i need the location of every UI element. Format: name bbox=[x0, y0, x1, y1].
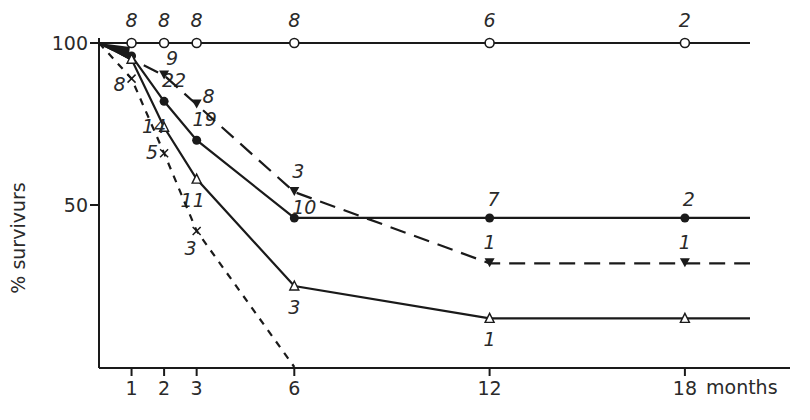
open-circles-marker bbox=[680, 39, 689, 48]
series-group: 8888622219107298311141131853 bbox=[99, 9, 750, 367]
open-triangles-point-label: 14 bbox=[142, 115, 166, 137]
open-circles-marker bbox=[290, 39, 299, 48]
origin-cluster bbox=[99, 43, 130, 59]
open-triangles-point-label: 3 bbox=[288, 296, 300, 318]
open-circles-marker bbox=[192, 39, 201, 48]
open-circles-marker bbox=[485, 39, 494, 48]
filled-circles-marker bbox=[485, 213, 494, 222]
x-tick-label-1: 1 bbox=[126, 377, 138, 399]
filled-triangles-point-label: 8 bbox=[203, 85, 215, 107]
open-circles-point-label: 6 bbox=[484, 9, 496, 31]
x-tick-label-6: 6 bbox=[288, 377, 300, 399]
crosses-point-label: 5 bbox=[146, 141, 158, 163]
open-circles-point-label: 8 bbox=[158, 9, 170, 31]
filled-triangles-point-label: 1 bbox=[484, 231, 496, 253]
open-circles-marker bbox=[127, 39, 136, 48]
filled-triangles-point-label: 3 bbox=[292, 160, 304, 182]
series-open-circles: 888862 bbox=[99, 9, 750, 48]
crosses-point-label: 3 bbox=[185, 237, 197, 259]
open-circles-marker bbox=[160, 39, 169, 48]
x-axis-title: months bbox=[706, 376, 778, 398]
filled-circles-point-label: 10 bbox=[292, 196, 316, 218]
open-circles-point-label: 8 bbox=[288, 9, 300, 31]
open-triangles-point-label: 11 bbox=[181, 189, 205, 211]
filled-circles-point-label: 2 bbox=[683, 188, 695, 210]
survival-chart: 100 50 % survivurs 12361218 months 88886… bbox=[0, 0, 810, 420]
y-tick-label-100: 100 bbox=[52, 32, 88, 54]
filled-circles-marker bbox=[192, 136, 201, 145]
open-circles-point-label: 2 bbox=[679, 9, 691, 31]
filled-circles-marker bbox=[680, 213, 689, 222]
crosses-marker bbox=[128, 75, 136, 83]
open-circles-point-label: 8 bbox=[191, 9, 203, 31]
filled-circles-point-label: 7 bbox=[488, 188, 500, 210]
filled-triangles-marker bbox=[289, 187, 299, 196]
series-open-triangles: 141131 bbox=[99, 43, 750, 350]
crosses-point-label: 8 bbox=[114, 73, 126, 95]
open-circles-point-label: 8 bbox=[126, 9, 138, 31]
x-ticks: 12361218 bbox=[126, 368, 697, 399]
filled-circles-marker bbox=[160, 97, 169, 106]
y-tick-label-50: 50 bbox=[64, 194, 88, 216]
x-tick-label-18: 18 bbox=[673, 377, 697, 399]
x-tick-label-2: 2 bbox=[158, 377, 170, 399]
filled-triangles-point-label: 9 bbox=[166, 47, 178, 69]
open-triangles-point-label: 1 bbox=[484, 328, 496, 350]
filled-triangles-point-label: 1 bbox=[679, 231, 691, 253]
series-filled-triangles: 98311 bbox=[99, 43, 750, 267]
x-tick-label-12: 12 bbox=[478, 377, 502, 399]
y-axis-title: % survivurs bbox=[7, 182, 29, 293]
x-tick-label-3: 3 bbox=[191, 377, 203, 399]
chart-canvas: 100 50 % survivurs 12361218 months 88886… bbox=[0, 0, 810, 420]
